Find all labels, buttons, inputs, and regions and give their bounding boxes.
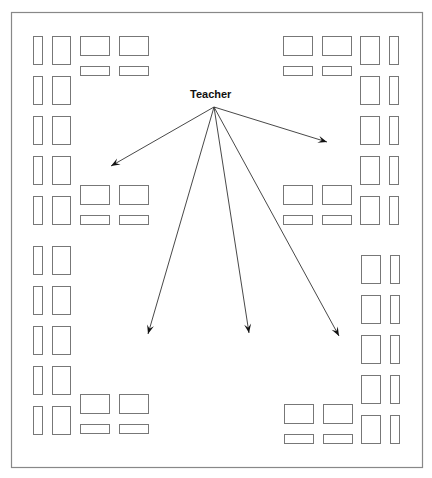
desk-narrow: [391, 336, 400, 364]
desk-narrow: [34, 77, 43, 105]
table: [324, 405, 353, 424]
desk-wide: [53, 287, 71, 315]
desk-narrow: [390, 117, 399, 145]
desk-wide: [361, 157, 380, 185]
bench: [323, 216, 352, 225]
desk-wide: [362, 296, 381, 324]
desk-narrow: [34, 247, 43, 275]
table: [323, 186, 352, 205]
table: [120, 186, 149, 205]
bench: [324, 435, 353, 444]
bench: [323, 67, 352, 76]
teacher-label: Teacher: [190, 88, 231, 100]
desk-narrow: [390, 157, 399, 185]
desk-narrow: [391, 376, 400, 404]
table: [81, 395, 110, 414]
table: [284, 186, 313, 205]
table: [81, 186, 110, 205]
desk-narrow: [34, 117, 43, 145]
desk-narrow: [391, 256, 400, 284]
desk-wide: [53, 407, 71, 435]
desk-wide: [53, 327, 71, 355]
desk-wide: [53, 77, 71, 105]
desk-narrow: [390, 37, 399, 65]
desk-wide: [361, 37, 380, 65]
desk-narrow: [34, 37, 43, 65]
desk-wide: [53, 157, 71, 185]
desk-narrow: [390, 197, 399, 225]
bench: [120, 216, 149, 225]
table: [284, 37, 313, 56]
desk-wide: [362, 256, 381, 284]
desk-narrow: [390, 77, 399, 105]
desk-wide: [53, 117, 71, 145]
desk-wide: [362, 416, 381, 444]
bench: [81, 425, 110, 434]
desk-narrow: [391, 296, 400, 324]
bench: [120, 425, 149, 434]
desk-narrow: [34, 157, 43, 185]
bench: [284, 216, 313, 225]
desk-narrow: [34, 197, 43, 225]
desk-narrow: [34, 407, 43, 435]
bench: [81, 67, 110, 76]
classroom-diagram: [0, 0, 432, 478]
bench: [285, 435, 314, 444]
desk-wide: [362, 336, 381, 364]
table: [120, 37, 149, 56]
desk-wide: [361, 77, 380, 105]
desk-wide: [53, 37, 71, 65]
desk-wide: [361, 117, 380, 145]
bench: [284, 67, 313, 76]
desk-narrow: [34, 287, 43, 315]
bench: [81, 216, 110, 225]
table: [81, 37, 110, 56]
desk-wide: [53, 367, 71, 395]
desk-wide: [361, 197, 380, 225]
table: [323, 37, 352, 56]
table: [120, 395, 149, 414]
desk-wide: [53, 197, 71, 225]
desk-narrow: [34, 327, 43, 355]
desk-narrow: [34, 367, 43, 395]
table: [285, 405, 314, 424]
desk-wide: [53, 247, 71, 275]
desk-narrow: [391, 416, 400, 444]
bench: [120, 67, 149, 76]
desk-wide: [362, 376, 381, 404]
